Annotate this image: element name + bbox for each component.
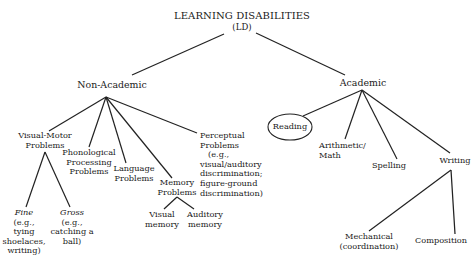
edge-academic-spelling: [362, 90, 397, 159]
edge-nonacademic-visualmotor: [49, 97, 106, 131]
edge-memory-auditory: [177, 197, 194, 209]
node-composition: Composition: [415, 236, 467, 246]
auditory-memory-line2: memory: [187, 220, 223, 230]
edge-writing-mechanical: [369, 170, 451, 231]
arithmetic-line2: Math: [319, 151, 366, 161]
root-title: LEARNING DISABILITIES: [174, 10, 310, 22]
edge-ld-academic: [256, 33, 345, 75]
fine-line4: writing): [3, 246, 46, 256]
edge-writing-composition: [451, 170, 455, 234]
edge-memory-visual: [164, 197, 177, 209]
node-spelling: Spelling: [372, 161, 406, 171]
node-gross: Gross (e.g., catching a ball): [50, 208, 93, 246]
root-abbr: (LD): [174, 22, 310, 32]
edge-nonacademic-perceptual: [106, 97, 197, 133]
node-auditory-memory: Auditory memory: [187, 210, 223, 229]
language-line2: Problems: [113, 174, 154, 184]
gross-line3: ball): [50, 237, 93, 247]
root-node: LEARNING DISABILITIES (LD): [174, 10, 310, 32]
node-fine: Fine (e.g., tying shoelaces, writing): [3, 208, 46, 256]
node-academic: Academic: [340, 78, 386, 88]
node-memory-problems: Memory Problems: [157, 178, 196, 197]
node-language-problems: Language Problems: [113, 164, 154, 183]
edge-ld-nonacademic: [132, 34, 224, 75]
node-phonological-processing-problems: Phonological Processing Problems: [62, 148, 115, 177]
perceptual-line7: discrimination): [200, 189, 263, 199]
node-mechanical-coordination: Mechanical (coordination): [340, 232, 399, 251]
node-reading: Reading: [273, 122, 307, 132]
node-perceptual-problems: Perceptual Problems (e.g., visual/audito…: [200, 131, 263, 198]
edge-nonacademic-phonological: [89, 97, 106, 147]
edge-academic-arithmetic: [345, 90, 362, 139]
mechanical-line2: (coordination): [340, 242, 399, 252]
visual-memory-line2: memory: [145, 220, 179, 230]
edge-academic-writing: [362, 90, 450, 153]
phonological-line3: Problems: [62, 167, 115, 177]
node-visual-memory: Visual memory: [145, 210, 179, 229]
edge-academic-reading: [303, 90, 362, 116]
node-writing: Writing: [439, 156, 470, 166]
memory-line2: Problems: [157, 188, 196, 198]
node-arithmetic-math: Arithmetic/ Math: [319, 141, 366, 160]
edge-visualmotor-fine: [26, 152, 45, 207]
node-non-academic: Non-Academic: [77, 80, 146, 90]
